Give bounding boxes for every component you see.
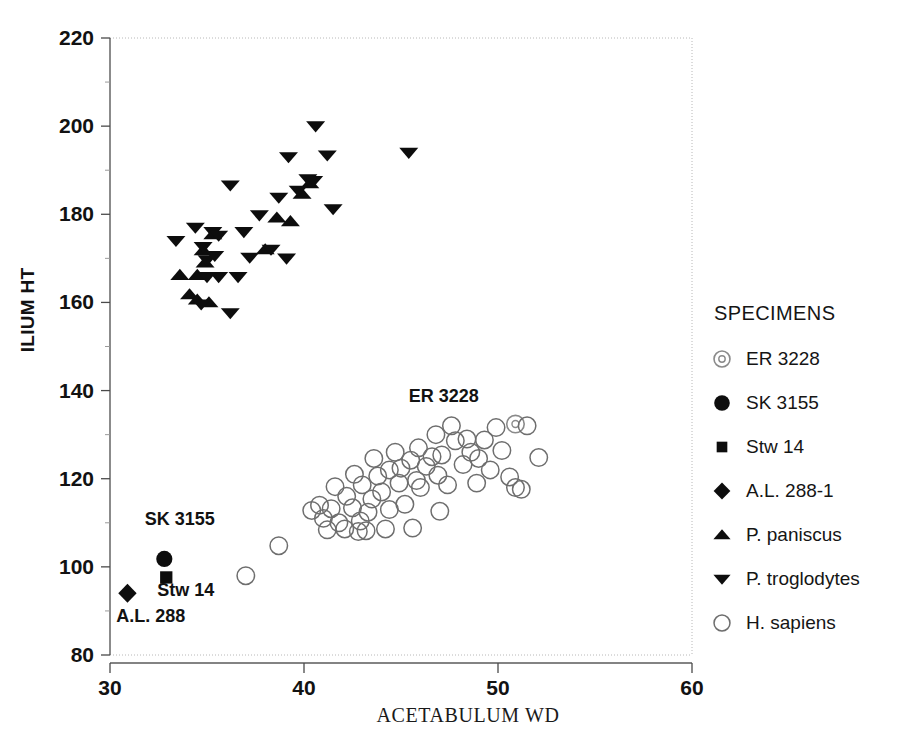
annotation-label: SK 3155 — [145, 509, 215, 529]
legend-item-label: P. paniscus — [746, 524, 842, 545]
legend-item[interactable]: ER 3228 — [706, 346, 896, 378]
y-tick-label: 220 — [59, 26, 94, 49]
legend-marker-square-icon — [717, 442, 728, 453]
legend-item[interactable]: A.L. 288-1 — [706, 478, 896, 510]
y-tick-label: 140 — [59, 379, 94, 402]
y-tick-label: 200 — [59, 114, 94, 137]
legend-marker-circle-icon — [714, 395, 730, 411]
y-tick-label: 160 — [59, 290, 94, 313]
legend-item-label: H. sapiens — [746, 612, 836, 633]
y-tick-label: 80 — [71, 643, 94, 666]
annotation-label: ER 3228 — [409, 386, 479, 406]
x-tick-label: 50 — [486, 676, 509, 699]
legend-item-label: A.L. 288-1 — [746, 480, 834, 501]
data-point — [156, 551, 172, 567]
x-tick-label: 60 — [680, 676, 703, 699]
x-axis-title: ACETABULUM WD — [376, 704, 559, 726]
legend-item-label: SK 3155 — [746, 392, 819, 413]
series-sk-3155 — [156, 551, 172, 567]
legend-item[interactable]: P. paniscus — [706, 522, 896, 554]
legend-item-label: P. troglodytes — [746, 568, 860, 589]
legend-item-label: Stw 14 — [746, 436, 805, 457]
y-tick-label: 120 — [59, 467, 94, 490]
x-tick-label: 40 — [292, 676, 315, 699]
chart-page: 8010012014016018020022030405060 ER 3228S… — [0, 0, 921, 752]
legend-title: SPECIMENS — [714, 302, 835, 324]
x-tick-label: 30 — [98, 676, 121, 699]
y-tick-label: 180 — [59, 202, 94, 225]
annotation-label: A.L. 288 — [116, 606, 185, 626]
legend-item-label: ER 3228 — [746, 348, 820, 369]
y-axis-title: ILIUM HT — [17, 268, 38, 353]
legend-item[interactable]: SK 3155 — [706, 390, 896, 422]
legend-item[interactable]: P. troglodytes — [706, 566, 896, 598]
annotation-label: Stw 14 — [157, 580, 214, 600]
legend-item[interactable]: Stw 14 — [706, 434, 896, 466]
scatter-plot: 8010012014016018020022030405060 ER 3228S… — [0, 0, 921, 752]
legend-item[interactable]: H. sapiens — [706, 610, 896, 642]
y-tick-label: 100 — [59, 555, 94, 578]
